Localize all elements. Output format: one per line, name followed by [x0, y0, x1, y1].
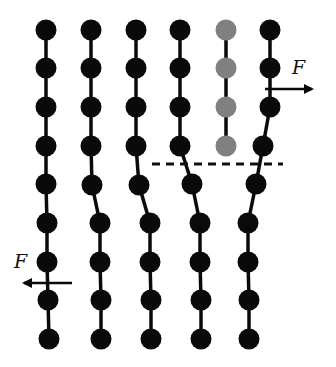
bead [140, 252, 161, 273]
bead [36, 174, 57, 195]
bead [141, 329, 162, 350]
bead [170, 58, 191, 79]
bead [126, 58, 147, 79]
applied-forces: F F [13, 56, 312, 283]
bead [239, 329, 260, 350]
chain-5 [216, 20, 237, 157]
bead [190, 213, 211, 234]
bead-chain-diagram: F F [0, 0, 336, 367]
bead [191, 329, 212, 350]
chain-3 [126, 20, 162, 350]
chain-4 [170, 20, 212, 350]
bead [91, 290, 112, 311]
bead [170, 136, 191, 157]
bead [140, 213, 161, 234]
chain-1 [36, 20, 60, 350]
bead [246, 174, 267, 195]
bead [36, 20, 57, 41]
bead [36, 58, 57, 79]
bead [81, 58, 102, 79]
bead [82, 175, 103, 196]
bead [190, 252, 211, 273]
bead [81, 20, 102, 41]
bead [170, 97, 191, 118]
bead [170, 20, 191, 41]
bead [253, 136, 274, 157]
bead [238, 213, 259, 234]
bead [191, 290, 212, 311]
bead [182, 174, 203, 195]
bead-highlighted [216, 136, 237, 157]
bead [126, 97, 147, 118]
force-label-right: F [291, 56, 306, 78]
bead [126, 136, 147, 157]
bead-highlighted [216, 20, 237, 41]
chain-6 [238, 20, 281, 350]
bead [238, 252, 259, 273]
chain-2 [81, 20, 112, 350]
bead [239, 290, 260, 311]
force-label-left: F [13, 250, 28, 272]
bead [36, 136, 57, 157]
polymer-chains [36, 20, 281, 350]
bead [90, 213, 111, 234]
bead [141, 290, 162, 311]
bead [260, 58, 281, 79]
bead [260, 20, 281, 41]
bead [90, 252, 111, 273]
bead [81, 97, 102, 118]
bead [38, 290, 59, 311]
bead [37, 213, 58, 234]
bead [37, 252, 58, 273]
bead [129, 175, 150, 196]
bead-highlighted [216, 58, 237, 79]
bead [39, 329, 60, 350]
bead [260, 97, 281, 118]
bead [36, 97, 57, 118]
bead [91, 329, 112, 350]
bead [126, 20, 147, 41]
bead [81, 136, 102, 157]
bead-highlighted [216, 97, 237, 118]
